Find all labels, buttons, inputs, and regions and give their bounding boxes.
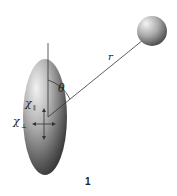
svg-text:χ: χ [24,97,33,110]
radius-line [48,40,143,117]
susceptibility-ellipsoid [23,59,67,175]
r-label: r [108,51,114,62]
figure-number: 1 [85,176,91,187]
svg-text:∥: ∥ [33,104,36,111]
theta-label: θ [58,82,65,95]
diagram-figure: θ r χ ∥ χ ⊥ 1 [0,0,177,196]
svg-text:χ: χ [12,115,21,128]
svg-text:⊥: ⊥ [21,122,27,129]
sphere [137,16,167,46]
